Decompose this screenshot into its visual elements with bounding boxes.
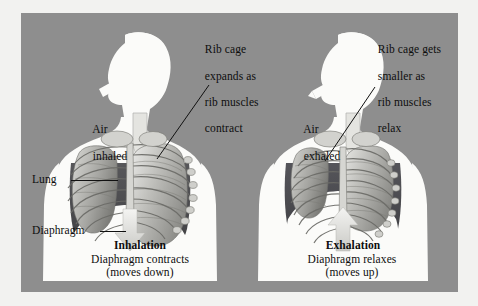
ribcage-smaller-line1: Rib cage gets — [378, 43, 441, 55]
ribcage-smaller-line4: relax — [378, 122, 401, 134]
lung-leader-line — [71, 180, 118, 181]
ribcage-expands-line1: Rib cage — [205, 43, 246, 55]
ribcage-smaller-line3: rib muscles — [378, 96, 432, 108]
inhalation-desc-line2: (moves down) — [70, 266, 210, 279]
inhalation-desc-line1: Diaphragm contracts — [70, 253, 210, 266]
air-inhaled-line2: inhaled — [93, 150, 128, 162]
ribcage-expands-leader-line — [151, 83, 211, 163]
exhalation-desc-line2: (moves up) — [282, 266, 422, 279]
ribcage-smaller-leader-line — [321, 85, 381, 165]
air-inhaled-line1: Air — [92, 123, 108, 135]
lung-label: Lung — [32, 173, 57, 186]
air-exhaled-line1: Air — [303, 123, 319, 135]
inhalation-title: Inhalation — [100, 239, 180, 252]
ribcage-smaller-line2: smaller as — [378, 70, 425, 82]
air-inhaled-label: Air inhaled — [69, 110, 127, 176]
diagram-root: Air inhaled Inhalation Diaphragm contrac… — [0, 0, 478, 306]
exhalation-desc-line1: Diaphragm relaxes — [282, 253, 422, 266]
diaphragm-leader-line — [100, 231, 126, 232]
diagram-panel: Air inhaled Inhalation Diaphragm contrac… — [21, 13, 458, 292]
ribcage-expands-line2: expands as — [205, 70, 256, 82]
ribcage-expands-line3: rib muscles — [205, 96, 259, 108]
exhalation-title: Exhalation — [310, 239, 396, 252]
diaphragm-label: Diaphragm — [32, 224, 85, 237]
